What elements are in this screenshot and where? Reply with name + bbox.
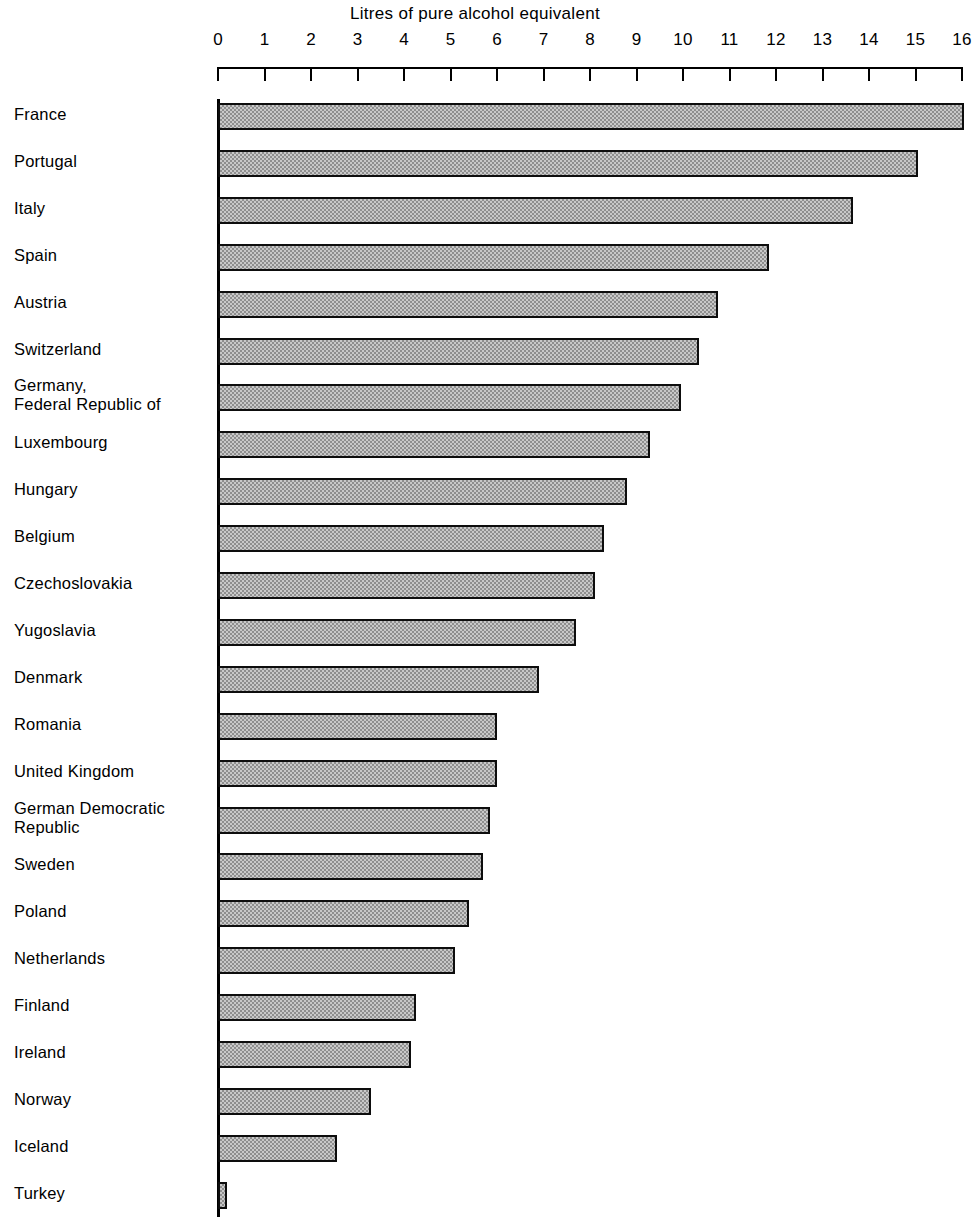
- category-label: Ireland: [14, 1043, 66, 1062]
- category-label: Czechoslovakia: [14, 574, 132, 593]
- category-label: Turkey: [14, 1184, 65, 1203]
- bar: [218, 760, 497, 787]
- category-label: Germany, Federal Republic of: [14, 376, 161, 414]
- x-axis-tick-label: 7: [524, 30, 564, 50]
- category-label: Iceland: [14, 1137, 69, 1156]
- category-label: Austria: [14, 293, 67, 312]
- x-axis-tick-label: 15: [896, 30, 936, 50]
- x-axis-tick: [217, 67, 219, 81]
- bar: [218, 150, 918, 177]
- category-label: Yugoslavia: [14, 621, 96, 640]
- x-axis-tick-label: 10: [663, 30, 703, 50]
- bar: [218, 807, 490, 834]
- bar: [218, 103, 964, 130]
- x-axis-tick-label: 0: [198, 30, 238, 50]
- x-axis: 012345678910111213141516: [0, 0, 980, 100]
- x-axis-tick: [961, 67, 963, 81]
- x-axis-tick: [450, 67, 452, 81]
- bar: [218, 572, 595, 599]
- category-label: Romania: [14, 715, 81, 734]
- category-label: Spain: [14, 246, 57, 265]
- category-label: Finland: [14, 996, 70, 1015]
- bar: [218, 853, 483, 880]
- x-axis-tick-label: 13: [803, 30, 843, 50]
- x-axis-tick: [636, 67, 638, 81]
- bar: [218, 478, 627, 505]
- bar: [218, 947, 455, 974]
- category-label: Norway: [14, 1090, 71, 1109]
- x-axis-tick-label: 1: [245, 30, 285, 50]
- category-label: Poland: [14, 902, 67, 921]
- bar: [218, 1088, 371, 1115]
- bar: [218, 431, 650, 458]
- bar: [218, 197, 853, 224]
- x-axis-tick-label: 3: [338, 30, 378, 50]
- x-axis-tick: [682, 67, 684, 81]
- category-label: Belgium: [14, 527, 75, 546]
- bar: [218, 1135, 337, 1162]
- x-axis-tick: [775, 67, 777, 81]
- x-axis-tick: [915, 67, 917, 81]
- category-label: Sweden: [14, 855, 75, 874]
- category-label: German Democratic Republic: [14, 799, 165, 837]
- x-axis-tick-label: 8: [570, 30, 610, 50]
- x-axis-tick: [543, 67, 545, 81]
- bar: [218, 900, 469, 927]
- x-axis-tick-label: 5: [431, 30, 471, 50]
- x-axis-tick: [310, 67, 312, 81]
- category-label: Denmark: [14, 668, 82, 687]
- category-label: Hungary: [14, 480, 78, 499]
- bar: [218, 1041, 411, 1068]
- category-label: Italy: [14, 199, 45, 218]
- bar: [218, 666, 539, 693]
- x-axis-tick: [264, 67, 266, 81]
- category-label: Portugal: [14, 152, 77, 171]
- x-axis-tick: [403, 67, 405, 81]
- bar: [218, 1182, 227, 1209]
- x-axis-tick: [822, 67, 824, 81]
- x-axis-tick-label: 9: [617, 30, 657, 50]
- x-axis-tick: [729, 67, 731, 81]
- x-axis-tick-label: 12: [756, 30, 796, 50]
- bar: [218, 713, 497, 740]
- x-axis-tick-label: 6: [477, 30, 517, 50]
- bar: [218, 291, 718, 318]
- category-label: Switzerland: [14, 340, 102, 359]
- bar: [218, 619, 576, 646]
- x-axis-tick-label: 4: [384, 30, 424, 50]
- category-label: United Kingdom: [14, 762, 134, 781]
- category-label: France: [14, 105, 67, 124]
- x-axis-tick-label: 11: [710, 30, 750, 50]
- bar: [218, 338, 699, 365]
- x-axis-tick: [357, 67, 359, 81]
- x-axis-tick-label: 16: [942, 30, 980, 50]
- x-axis-tick-label: 2: [291, 30, 331, 50]
- bar: [218, 994, 416, 1021]
- x-axis-tick: [589, 67, 591, 81]
- bar: [218, 384, 681, 411]
- category-label: Netherlands: [14, 949, 105, 968]
- x-axis-tick-label: 14: [849, 30, 889, 50]
- bar: [218, 244, 769, 271]
- x-axis-tick: [496, 67, 498, 81]
- category-label: Luxembourg: [14, 433, 108, 452]
- bar: [218, 525, 604, 552]
- x-axis-tick: [868, 67, 870, 81]
